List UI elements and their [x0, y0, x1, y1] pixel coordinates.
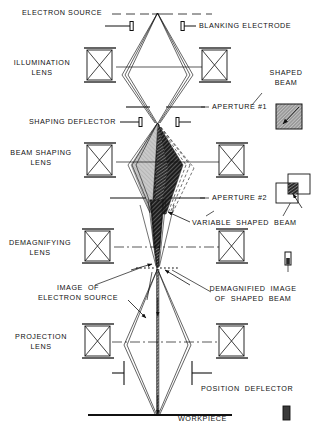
projection-lens-symbol [82, 324, 114, 358]
position-deflector-symbol [112, 361, 212, 385]
label-variable-shaped-beam: VARIABLE SHAPED BEAM [192, 218, 297, 228]
demagnified-image-inset [285, 252, 291, 265]
label-position-deflector: POSITION DEFLECTOR [201, 384, 293, 394]
workpiece-spot-inset [283, 406, 290, 420]
label-workpiece: WORKPIECE [178, 414, 227, 424]
projection-beam-core [157, 269, 159, 414]
label-aperture-1: APERTURE #1 [212, 102, 267, 112]
label-electron-source: ELECTRON SOURCE [22, 8, 102, 18]
label-image-of-electron-source: IMAGE OF ELECTRON SOURCE [28, 283, 128, 302]
variable-shaped-beam-inset [276, 174, 310, 208]
demagnifying-lens-symbol [82, 229, 114, 263]
label-aperture-2: APERTURE #2 [212, 193, 267, 203]
label-beam-shaping-lens: BEAM SHAPING LENS [2, 148, 80, 167]
beam-shaping-lens-symbol-right [196, 143, 248, 177]
figure-canvas: ELECTRON SOURCE BLANKING ELECTRODE ILLUM… [0, 0, 314, 430]
demagnifying-lens-symbol-right [216, 229, 248, 263]
label-demagnifying-lens: DEMAGNIFYING LENS [1, 238, 79, 257]
label-demagnified-image-of-shaped-beam: DEMAGNIFIED IMAGE OF SHAPED BEAM [196, 284, 310, 303]
projection-lens-symbol-right [216, 324, 248, 358]
label-illumination-lens: ILLUMINATION LENS [6, 58, 78, 77]
label-shaped-beam: SHAPED BEAM [262, 68, 310, 87]
shaped-beam-inset [276, 104, 302, 129]
label-projection-lens: PROJECTION LENS [2, 332, 80, 351]
label-blanking-electrode: BLANKING ELECTRODE [199, 21, 291, 31]
beam-shaping-lens-symbol [84, 143, 132, 177]
illumination-lens-symbol-right [191, 48, 231, 82]
illumination-lens-symbol [84, 48, 124, 82]
label-shaping-deflector: SHAPING DEFLECTOR [20, 117, 116, 127]
